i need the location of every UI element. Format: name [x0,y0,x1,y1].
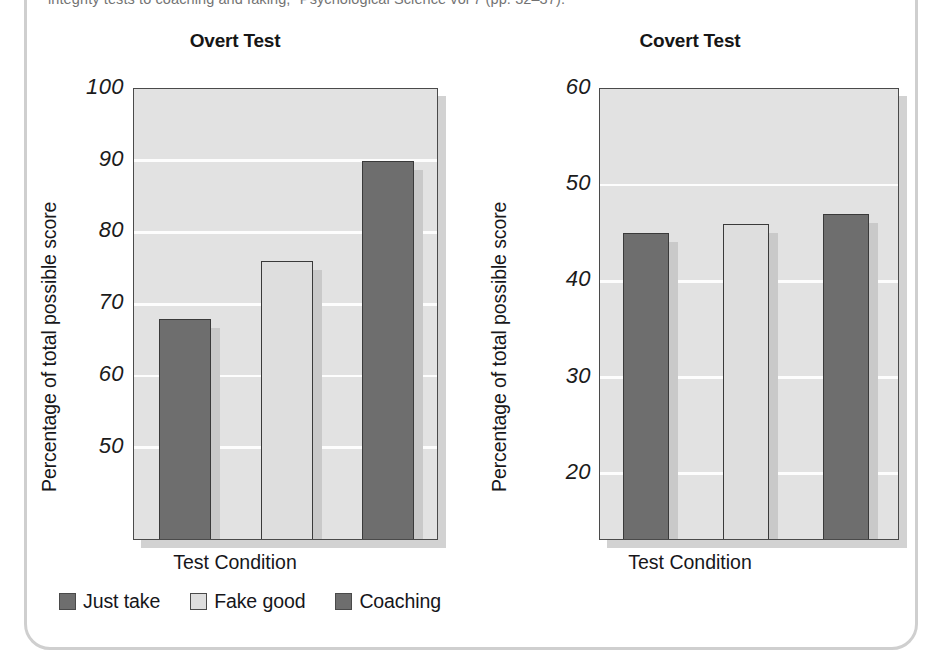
chart-legend: Just takeFake goodCoaching [0,590,500,613]
bar-coaching [823,214,869,540]
y-tick-label-90: 90 [99,146,124,172]
bar-just-take [159,319,211,540]
y-tick-label-30: 30 [566,363,591,389]
x-axis-label-overt: Test Condition [0,551,500,574]
bar-just-take [623,233,669,540]
legend-item-fake-good: Fake good [190,590,305,613]
plot-area-covert [599,88,899,540]
bar-fake-good [261,261,313,540]
y-axis-label-covert: Percentage of total possible score [488,202,511,492]
plot-area-overt [133,88,438,540]
y-tick-label-50: 50 [566,171,591,197]
legend-swatch-icon [59,593,76,610]
legend-label: Just take [83,590,160,613]
y-axis-ticks-overt: 1009080706050 [58,0,124,600]
y-tick-label-80: 80 [99,218,124,244]
y-tick-label-60: 60 [566,74,591,100]
y-tick-label-60: 60 [99,361,124,387]
chart-covert-test: Covert Test Percentage of total possible… [455,0,925,600]
legend-label: Coaching [359,590,441,613]
legend-item-just-take: Just take [59,590,160,613]
gridline-50 [600,184,898,187]
chart-overt-test: Overt Test Percentage of total possible … [0,0,470,600]
legend-label: Fake good [214,590,305,613]
y-axis-ticks-covert: 6050403020 [527,0,591,600]
y-tick-label-70: 70 [99,290,124,316]
legend-item-coaching: Coaching [335,590,441,613]
legend-swatch-icon [335,593,352,610]
bar-fake-good [723,224,769,540]
legend-swatch-icon [190,593,207,610]
bar-coaching [362,161,414,540]
y-tick-label-50: 50 [99,433,124,459]
y-tick-label-100: 100 [86,74,124,100]
y-tick-label-40: 40 [566,267,591,293]
x-axis-label-covert: Test Condition [455,551,941,574]
y-tick-label-20: 20 [566,459,591,485]
